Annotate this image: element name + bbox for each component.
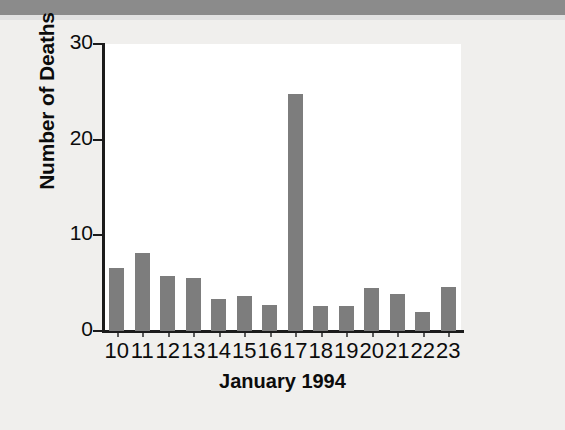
y-axis-ticks: 0102030 <box>30 0 93 430</box>
bar <box>211 299 226 331</box>
bar-series <box>104 44 461 331</box>
x-axis-tick-label: 12 <box>156 338 180 364</box>
x-axis-tick-mark <box>295 333 297 337</box>
x-axis-tick-mark <box>193 333 195 337</box>
y-axis-tick-label: 0 <box>49 317 93 341</box>
y-axis-tick-label: 20 <box>49 126 93 150</box>
bar <box>390 294 405 331</box>
bar <box>313 306 328 331</box>
x-axis-tick-label: 15 <box>232 338 256 364</box>
bar <box>262 305 277 331</box>
bar <box>339 306 354 331</box>
y-axis-tick-label: 30 <box>49 30 93 54</box>
x-axis-tick-label: 16 <box>258 338 282 364</box>
x-axis-tick-mark <box>423 333 425 337</box>
x-axis-tick-mark <box>346 333 348 337</box>
bar <box>288 94 303 331</box>
x-axis-tick-label: 18 <box>309 338 333 364</box>
x-axis-tick-label: 10 <box>105 338 129 364</box>
x-axis-tick-label: 11 <box>131 338 154 364</box>
x-axis-tick-mark <box>321 333 323 337</box>
bar <box>135 253 150 331</box>
y-axis-tick-mark <box>93 330 103 332</box>
x-axis-tick-mark <box>448 333 450 337</box>
x-axis-tick-label: 13 <box>181 338 205 364</box>
x-axis-tick-label: 22 <box>411 338 435 364</box>
x-axis-tick-label: 20 <box>360 338 384 364</box>
y-axis-tick-mark <box>93 43 103 45</box>
x-axis-tick-mark <box>397 333 399 337</box>
y-axis-tick-label: 10 <box>49 221 93 245</box>
x-axis-tick-mark <box>142 333 144 337</box>
chart-figure: Number of Deaths 0102030 January 1994 10… <box>0 0 565 430</box>
x-axis-tick-mark <box>244 333 246 337</box>
y-axis-tick-mark <box>93 234 103 236</box>
x-axis-tick-mark <box>219 333 221 337</box>
bar <box>237 296 252 331</box>
bar <box>109 268 124 331</box>
bar <box>160 276 175 331</box>
x-axis-tick-label: 14 <box>207 338 231 364</box>
x-axis-tick-mark <box>372 333 374 337</box>
x-axis-tick-mark <box>168 333 170 337</box>
x-axis-tick-mark <box>270 333 272 337</box>
bar <box>186 278 201 331</box>
x-axis-title: January 1994 <box>104 370 461 393</box>
x-axis-tick-label: 21 <box>385 338 409 364</box>
bar <box>441 287 456 331</box>
x-axis-tick-label: 23 <box>436 338 460 364</box>
x-axis-tick-label: 17 <box>283 338 307 364</box>
bar <box>364 288 379 331</box>
bar <box>415 312 430 331</box>
y-axis-tick-mark <box>93 139 103 141</box>
x-axis-tick-label: 19 <box>334 338 358 364</box>
x-axis-tick-mark <box>117 333 119 337</box>
